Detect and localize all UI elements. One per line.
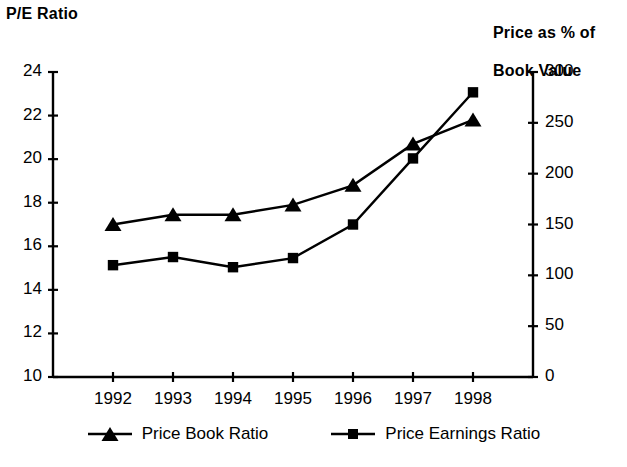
right-tick-label: 250 <box>545 112 591 132</box>
right-tick-label: 100 <box>545 264 591 284</box>
right-tick-label: 300 <box>545 61 591 81</box>
data-point-marker <box>408 153 418 163</box>
data-point-marker <box>348 219 358 229</box>
data-point-marker <box>465 112 482 126</box>
chart-container: P/E Ratio Price as % of Book Value 10121… <box>0 0 627 467</box>
legend-item-price-earnings-ratio: Price Earnings Ratio <box>330 424 540 444</box>
legend-label-price-earnings-ratio: Price Earnings Ratio <box>385 424 540 444</box>
data-point-marker <box>285 197 302 211</box>
right-tick-label: 50 <box>545 315 591 335</box>
data-point-marker <box>468 87 478 97</box>
left-tick-label: 12 <box>2 322 42 342</box>
data-point-marker <box>288 253 298 263</box>
data-point-marker <box>168 252 178 262</box>
x-tick-label: 1998 <box>438 389 508 409</box>
left-tick-label: 14 <box>2 279 42 299</box>
left-axis-title: P/E Ratio <box>6 4 78 23</box>
left-tick-label: 20 <box>2 148 42 168</box>
legend-label-price-book-ratio: Price Book Ratio <box>142 424 269 444</box>
axes <box>48 72 538 382</box>
left-tick-label: 18 <box>2 192 42 212</box>
right-tick-label: 200 <box>545 163 591 183</box>
data-point-marker <box>405 136 422 150</box>
legend-item-price-book-ratio: Price Book Ratio <box>87 424 269 444</box>
left-tick-label: 16 <box>2 235 42 255</box>
data-point-marker <box>228 262 238 272</box>
left-tick-label: 24 <box>2 61 42 81</box>
data-series <box>105 87 482 272</box>
chart-legend: Price Book Ratio Price Earnings Ratio <box>0 424 627 444</box>
square-marker-icon <box>330 425 376 443</box>
right-axis-title-line1: Price as % of <box>493 24 595 41</box>
data-point-marker <box>108 260 118 270</box>
right-tick-label: 150 <box>545 214 591 234</box>
left-tick-label: 22 <box>2 105 42 125</box>
left-tick-label: 10 <box>2 366 42 386</box>
right-tick-label: 0 <box>545 366 591 386</box>
triangle-marker-icon <box>87 425 133 443</box>
